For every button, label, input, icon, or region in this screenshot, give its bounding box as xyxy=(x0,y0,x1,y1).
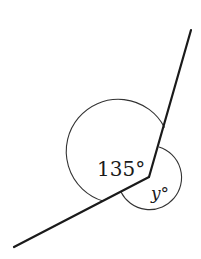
upper-ray xyxy=(149,30,191,177)
angle-135-label: 135° xyxy=(97,157,145,181)
arc-135 xyxy=(66,99,164,201)
angle-y-label: y° xyxy=(150,183,169,203)
angle-diagram: 135° y° xyxy=(0,0,201,259)
